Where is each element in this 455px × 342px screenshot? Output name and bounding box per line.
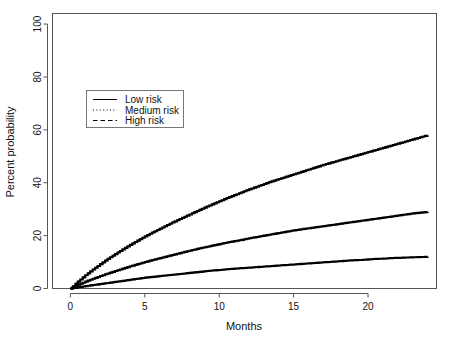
- x-axis-title: Months: [226, 320, 263, 332]
- x-tick-label: 5: [142, 301, 148, 312]
- chart-legend: Low riskMedium riskHigh risk: [87, 91, 184, 128]
- chart-container: 020406080100 05101520 Months Percent pro…: [0, 0, 455, 342]
- legend-label: Medium risk: [125, 105, 180, 116]
- x-tick-label: 20: [362, 301, 374, 312]
- x-tick-label: 10: [214, 301, 226, 312]
- y-tick-label: 40: [32, 177, 43, 189]
- y-tick-label: 100: [32, 15, 43, 32]
- chart-background: [0, 0, 455, 342]
- y-tick-label: 80: [32, 71, 43, 83]
- legend-label: High risk: [125, 115, 165, 126]
- legend-label: Low risk: [125, 94, 163, 105]
- y-axis-title: Percent probability: [4, 106, 16, 198]
- x-tick-label: 15: [288, 301, 300, 312]
- survival-curve-chart: 020406080100 05101520 Months Percent pro…: [0, 0, 455, 342]
- y-tick-label: 20: [32, 230, 43, 242]
- y-tick-label: 60: [32, 124, 43, 136]
- y-tick-label: 0: [32, 285, 43, 291]
- x-tick-label: 0: [68, 301, 74, 312]
